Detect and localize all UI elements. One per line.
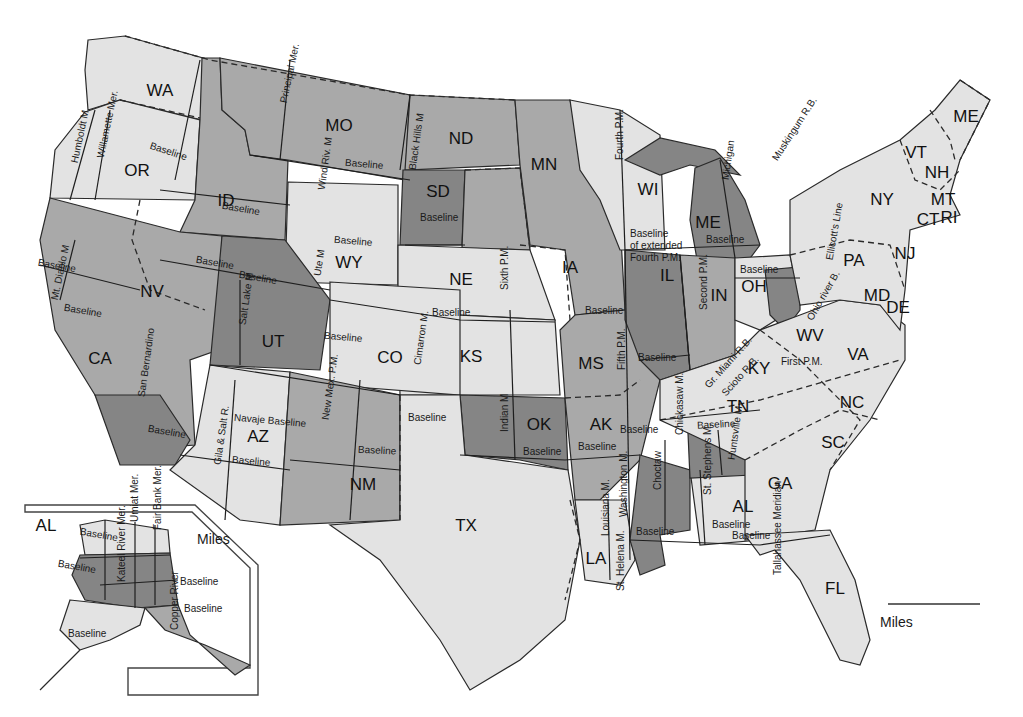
meridian-label: Michigan: [720, 139, 736, 180]
state-label-mo: MO: [325, 116, 352, 135]
meridian-label: First P.M.: [781, 356, 822, 367]
state-label-az: AZ: [247, 427, 269, 446]
region-sd: [400, 170, 465, 245]
meridian-label: Fair Bank Mer.: [152, 465, 163, 530]
us-public-land-survey-map: WAORIDMONDSDMNWYNEIAWIMENVUTCOKSMSILINOH…: [0, 0, 1023, 717]
state-label-co: CO: [377, 348, 403, 367]
state-label-al: AL: [36, 516, 57, 535]
baseline-label: Baseline: [638, 352, 677, 363]
state-label-ct: CT: [917, 210, 940, 229]
wisconsin-note-line: Fourth P.M.: [630, 252, 681, 263]
state-label-fl: FL: [825, 579, 845, 598]
state-label-me: ME: [695, 213, 721, 232]
state-label-ny: NY: [870, 190, 894, 209]
meridian-label: Kateel River Mer.: [116, 505, 127, 582]
state-label-wa: WA: [147, 81, 174, 100]
meridian-label: St. Stephens M.: [702, 424, 713, 495]
state-label-nj: NJ: [895, 244, 916, 263]
meridian-label: Louisiana M.: [600, 479, 611, 536]
state-label-nh: NH: [925, 163, 950, 182]
state-label-in: IN: [711, 286, 728, 305]
state-label-me: ME: [953, 107, 979, 126]
state-label-ut: UT: [262, 332, 285, 351]
state-label-ak: AK: [590, 415, 613, 434]
meridian-label: Indian M: [499, 394, 510, 432]
baseline-label: Baseline: [578, 441, 617, 452]
meridian-label: Second P.M.: [698, 254, 709, 310]
state-label-wv: WV: [796, 326, 824, 345]
state-label-nc: NC: [840, 393, 865, 412]
baseline-label: Baseline: [697, 418, 736, 431]
meridian-label: Tallahassee Meridian: [772, 481, 783, 575]
state-label-tx: TX: [455, 516, 477, 535]
scale-miles-label: Miles: [197, 531, 230, 547]
region-ak-copper: [145, 605, 250, 675]
baseline-label: Baseline: [420, 212, 459, 223]
state-label-nv: NV: [140, 282, 164, 301]
state-label-ok: OK: [527, 415, 552, 434]
baseline-label: Baseline: [184, 603, 223, 614]
baseline-label: Baseline: [740, 264, 779, 275]
baseline-label: Baseline: [706, 234, 745, 245]
scale-miles-label: Miles: [880, 614, 913, 630]
meridian-label: Fourth P.M.: [614, 109, 625, 160]
state-label-sc: SC: [821, 433, 845, 452]
state-label-la: LA: [586, 549, 607, 568]
state-label-mt: MT: [931, 190, 956, 209]
region-fl: [745, 530, 870, 665]
region-sd-east: [462, 168, 530, 250]
state-label-or: OR: [124, 161, 150, 180]
meridian-label: Umiat Mer.: [129, 474, 140, 522]
state-label-oh: OH: [741, 277, 767, 296]
meridian-label: Muskingum R.B.: [770, 95, 819, 163]
meridian-label: Choctaw: [652, 450, 663, 490]
state-label-vt: VT: [905, 143, 927, 162]
state-label-wy: WY: [335, 253, 362, 272]
state-label-sd: SD: [426, 182, 450, 201]
baseline-label: Baseline: [712, 519, 751, 530]
baseline-label: Baseline: [636, 526, 675, 537]
state-label-de: DE: [886, 298, 910, 317]
state-label-nd: ND: [449, 129, 474, 148]
state-label-ms: MS: [578, 354, 604, 373]
state-label-mn: MN: [531, 155, 557, 174]
meridian-label: Chickasaw M.: [674, 373, 685, 435]
baseline-label: Baseline: [732, 530, 771, 541]
meridian-label: Sixth P.M.: [499, 246, 510, 290]
baseline-label: Baseline: [585, 305, 624, 316]
state-label-ne: NE: [449, 270, 473, 289]
state-label-ri: RI: [941, 208, 958, 227]
state-label-ia: IA: [562, 258, 579, 277]
meridian-label: Copper River: [169, 570, 180, 630]
meridian-label: Washington M.: [618, 451, 629, 517]
baseline-label: Baseline: [358, 444, 397, 457]
wisconsin-note-line: of extended: [630, 240, 682, 251]
state-label-pa: PA: [843, 251, 865, 270]
state-label-wi: WI: [638, 180, 659, 199]
baseline-label: Baseline: [432, 307, 471, 318]
baseline-label: Baseline: [408, 412, 447, 423]
baseline-label: Baseline: [68, 628, 107, 639]
baseline-label: Baseline: [180, 576, 219, 587]
state-label-va: VA: [847, 345, 869, 364]
state-label-il: IL: [660, 266, 674, 285]
state-label-ca: CA: [88, 349, 112, 368]
state-label-ks: KS: [460, 347, 483, 366]
wisconsin-baseline-note: Baselineof extendedFourth P.M.: [630, 228, 682, 263]
state-label-nm: NM: [350, 475, 376, 494]
meridian-label: Fifth P.M.: [616, 329, 627, 371]
state-label-al: AL: [733, 497, 754, 516]
wisconsin-note-line: Baseline: [630, 228, 669, 239]
meridian-label: St. Helena M.: [615, 530, 626, 591]
baseline-label: Baseline: [523, 446, 562, 457]
baseline-label: Baseline: [620, 424, 659, 435]
